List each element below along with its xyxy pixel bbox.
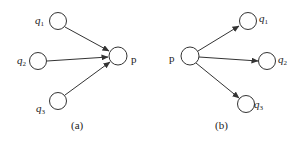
edge-q1-to-p xyxy=(65,27,109,51)
label-q2: q2 xyxy=(278,53,288,67)
node-q3 xyxy=(238,96,255,113)
node-p xyxy=(181,47,199,65)
diagram-canvas: q1 q2 q3 p (a) p q1 q2 q3 (b) xyxy=(0,0,300,142)
node-q1 xyxy=(240,13,257,30)
label-q1: q1 xyxy=(35,14,45,28)
label-q3: q3 xyxy=(254,98,264,112)
node-q2 xyxy=(259,53,276,70)
panel-a: q1 q2 q3 p (a) xyxy=(17,13,137,133)
caption-a: (a) xyxy=(71,119,84,132)
label-q2: q2 xyxy=(17,54,27,68)
node-p xyxy=(109,47,127,65)
node-q3 xyxy=(50,93,67,110)
node-q2 xyxy=(30,53,47,70)
label-p: p xyxy=(169,52,175,64)
node-q1 xyxy=(50,13,67,30)
label-p: p xyxy=(131,53,137,65)
caption-b: (b) xyxy=(215,119,228,132)
edge-p-to-q1 xyxy=(198,26,239,51)
edge-q2-to-p xyxy=(47,57,108,61)
panel-b: p q1 q2 q3 (b) xyxy=(169,12,288,132)
edge-q3-to-p xyxy=(65,62,110,95)
edge-p-to-q3 xyxy=(196,63,239,98)
label-q3: q3 xyxy=(36,102,46,116)
label-q1: q1 xyxy=(259,12,269,26)
edge-p-to-q2 xyxy=(199,57,258,61)
